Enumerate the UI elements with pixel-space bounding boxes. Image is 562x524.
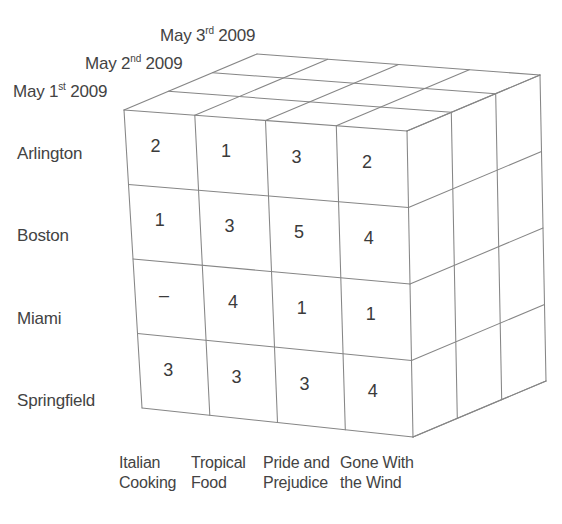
- right-grid-depth-line: [409, 152, 542, 208]
- book-label-line1: Tropical: [191, 453, 246, 473]
- date-label-may-3: May 3rd 2009: [160, 26, 255, 46]
- date-label-may-2: May 2nd 2009: [85, 54, 183, 74]
- cube-wireframe: [0, 0, 562, 524]
- top-grid-width-line: [257, 54, 540, 75]
- date-ordinal-number: 1: [49, 82, 58, 101]
- cube-cell-value: 4: [360, 381, 386, 402]
- city-label-boston: Boston: [17, 226, 69, 246]
- right-grid-height-line: [451, 112, 457, 418]
- right-grid-height-line: [496, 94, 502, 400]
- date-year: 2009: [66, 82, 108, 101]
- date-ordinal-suffix: nd: [130, 53, 141, 64]
- date-label-may-1: May 1st 2009: [13, 82, 107, 102]
- city-label-miami: Miami: [17, 309, 61, 329]
- book-label-line1: Pride and: [263, 453, 330, 473]
- book-label-line1: Italian: [119, 453, 176, 473]
- city-label-springfield: Springfield: [17, 391, 95, 411]
- date-month: May: [160, 26, 196, 45]
- right-grid-depth-line: [412, 305, 545, 361]
- right-grid-depth-line: [407, 75, 540, 131]
- date-ordinal-suffix: rd: [205, 25, 214, 36]
- date-year: 2009: [141, 54, 183, 73]
- cube-cell-value: 4: [356, 228, 382, 249]
- cube-cell-value: 5: [286, 222, 312, 243]
- book-label-line2: Food: [191, 473, 246, 493]
- cube-cell-value: 2: [354, 152, 380, 173]
- book-label-italian-cooking: Italian Cooking: [119, 453, 176, 493]
- bottom-right-depth-edge: [413, 381, 546, 437]
- date-year: 2009: [214, 26, 256, 45]
- date-ordinal-suffix: st: [58, 81, 65, 92]
- top-grid-depth-line: [336, 70, 469, 126]
- cube-cell-value: 3: [284, 147, 310, 168]
- cube-cell-value: 3: [223, 367, 249, 388]
- cube-cell-value: 4: [220, 292, 246, 313]
- cube-cell-value: –: [151, 285, 177, 306]
- city-label-arlington: Arlington: [17, 144, 82, 164]
- book-label-line2: Cooking: [119, 473, 176, 493]
- book-label-gone-with-the-wind: Gone With the Wind: [340, 453, 414, 493]
- book-label-tropical-food: Tropical Food: [191, 453, 246, 493]
- date-ordinal-number: 2: [121, 54, 130, 73]
- top-grid-depth-line: [195, 59, 328, 115]
- right-grid-height-line: [540, 75, 546, 381]
- cube-cell-value: 1: [147, 210, 173, 231]
- book-label-line1: Gone With: [340, 453, 414, 473]
- cube-cell-value: 3: [292, 374, 318, 395]
- cube-cell-value: 1: [289, 298, 315, 319]
- book-label-line2: the Wind: [340, 473, 414, 493]
- date-month: May: [85, 54, 121, 73]
- cube-cell-value: 1: [213, 141, 239, 162]
- data-cube-figure: May 3rd 2009 May 2nd 2009 May 1st 2009 A…: [0, 0, 562, 524]
- cube-cell-value: 2: [143, 136, 169, 157]
- cube-cell-value: 3: [217, 216, 243, 237]
- top-grid-depth-line: [266, 65, 399, 121]
- cube-cell-value: 1: [358, 304, 384, 325]
- top-grid-width-line: [213, 73, 496, 94]
- date-month: May: [13, 82, 49, 101]
- date-ordinal-number: 3: [196, 26, 205, 45]
- book-label-line2: Prejudice: [263, 473, 330, 493]
- cube-cell-value: 3: [155, 360, 181, 381]
- right-grid-depth-line: [410, 228, 543, 284]
- book-label-pride-and-prejudice: Pride and Prejudice: [263, 453, 330, 493]
